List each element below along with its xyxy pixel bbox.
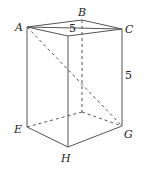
diagonal-ag xyxy=(27,27,122,126)
vertex-label-h: H xyxy=(60,152,71,165)
edge-ad xyxy=(27,27,68,36)
vertex-label-b: B xyxy=(77,6,86,19)
edge-eh xyxy=(27,127,68,147)
vertex-label-a: A xyxy=(14,21,23,34)
vertex-label-c: C xyxy=(125,23,134,36)
edge-length-height: 5 xyxy=(125,69,132,82)
prism-diagram: A B C E G H 5 5 xyxy=(0,0,147,172)
edge-bc xyxy=(82,20,122,29)
hidden-edge-ef xyxy=(27,112,82,127)
edge-hg xyxy=(68,126,122,147)
vertex-label-e: E xyxy=(13,123,22,136)
hidden-edge-fg xyxy=(82,112,122,126)
vertex-label-g: G xyxy=(124,128,133,141)
edge-length-top: 5 xyxy=(69,22,76,35)
edge-dc xyxy=(68,29,122,36)
